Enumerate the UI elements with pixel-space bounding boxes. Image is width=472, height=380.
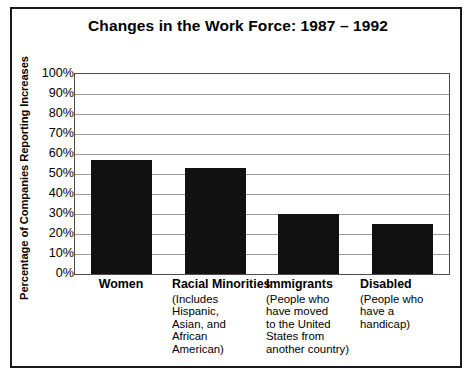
y-tick-label: 100% bbox=[32, 67, 74, 80]
bar-women bbox=[91, 160, 152, 274]
x-category-name: Immigrants bbox=[266, 277, 352, 291]
y-axis-label-container: Percentage of Companies Reporting Increa… bbox=[15, 47, 33, 309]
y-tick-label: 50% bbox=[32, 167, 74, 180]
y-tick-label: 10% bbox=[32, 247, 74, 260]
x-category-racial-minorities: Racial Minorities(Includes Hispanic,Asia… bbox=[172, 277, 258, 355]
x-category-subtitle: (Includes Hispanic,Asian, andAfrican Ame… bbox=[172, 293, 258, 355]
x-category-subtitle: (People whohave movedto the UnitedStates… bbox=[266, 293, 352, 355]
plot-area bbox=[74, 73, 450, 275]
x-category-name: Women bbox=[78, 277, 164, 291]
x-category-disabled: Disabled(People whohave ahandicap) bbox=[360, 277, 446, 330]
y-tick-label: 0% bbox=[32, 267, 74, 280]
chart-title: Changes in the Work Force: 1987 – 1992 bbox=[12, 17, 464, 35]
chart-figure: Changes in the Work Force: 1987 – 1992 P… bbox=[10, 7, 462, 368]
y-tick-label: 20% bbox=[32, 227, 74, 240]
y-axis-tick-labels: 100%90%80%70%60%50%40%30%20%10%0% bbox=[32, 72, 74, 276]
y-tick-label: 70% bbox=[32, 127, 74, 140]
y-tick-label: 30% bbox=[32, 207, 74, 220]
x-axis-category-labels: WomenRacial Minorities(Includes Hispanic… bbox=[74, 277, 450, 367]
x-category-women: Women bbox=[78, 277, 164, 291]
y-tick-label: 60% bbox=[32, 147, 74, 160]
bar-racial-minorities bbox=[185, 168, 246, 274]
bar-series bbox=[75, 74, 449, 274]
x-category-name: Disabled bbox=[360, 277, 446, 291]
x-category-name: Racial Minorities bbox=[172, 277, 258, 291]
y-tick-label: 80% bbox=[32, 107, 74, 120]
y-axis-label: Percentage of Companies Reporting Increa… bbox=[18, 56, 30, 300]
x-category-immigrants: Immigrants(People whohave movedto the Un… bbox=[266, 277, 352, 355]
y-tick-label: 40% bbox=[32, 187, 74, 200]
bar-disabled bbox=[372, 224, 433, 274]
x-category-subtitle: (People whohave ahandicap) bbox=[360, 293, 446, 330]
bar-immigrants bbox=[278, 214, 339, 274]
y-tick-label: 90% bbox=[32, 87, 74, 100]
